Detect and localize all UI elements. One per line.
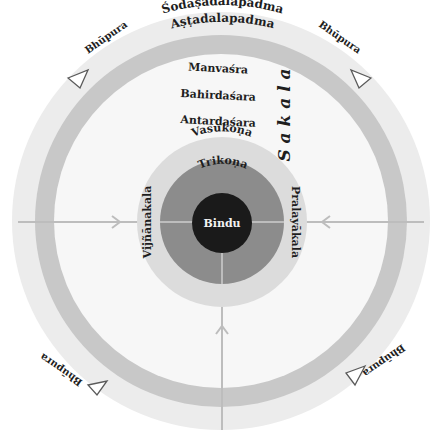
label-pralayakala: Pralayākala xyxy=(289,186,302,258)
label-vijnanakala: Vijñānakala xyxy=(141,186,154,260)
mandala-diagram: Śodaṣadalapadma Aṣṭadalapadma Manvaśra B… xyxy=(0,0,438,445)
label-bindu: Bindu xyxy=(203,217,240,230)
label-sakala: S a k a l a xyxy=(274,68,294,161)
